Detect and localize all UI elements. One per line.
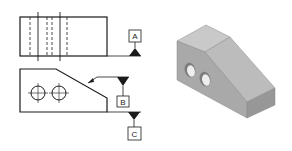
front-view-outline bbox=[20, 69, 107, 112]
hole-1 bbox=[28, 83, 48, 103]
leader-arrow-icon bbox=[88, 78, 94, 83]
datum-c-label: C bbox=[132, 130, 138, 139]
front-view: B C bbox=[20, 69, 141, 140]
datum-diagram: A B C bbox=[0, 0, 292, 151]
datum-a-label: A bbox=[132, 32, 138, 41]
datum-c-triangle-icon bbox=[128, 112, 140, 120]
top-view: A bbox=[20, 12, 141, 61]
datum-b-triangle-icon bbox=[117, 77, 129, 86]
datum-b-label: B bbox=[120, 98, 125, 107]
datum-a-triangle-icon bbox=[129, 48, 141, 56]
isometric-part bbox=[177, 25, 275, 118]
center-lines bbox=[38, 12, 60, 61]
hole-2 bbox=[49, 83, 69, 103]
top-view-outline bbox=[20, 17, 107, 56]
hidden-lines bbox=[30, 17, 67, 56]
